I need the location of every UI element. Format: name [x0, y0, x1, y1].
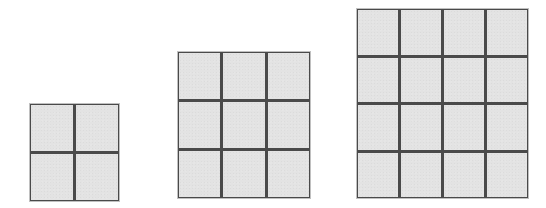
- grid-cell: [487, 58, 527, 103]
- grid-cell: [76, 154, 118, 200]
- grid-cell: [358, 105, 398, 150]
- grid-cell: [179, 53, 220, 99]
- grid-cell: [401, 10, 441, 55]
- grid-cell: [401, 58, 441, 103]
- grid-cell: [268, 102, 309, 148]
- grid-cell: [358, 10, 398, 55]
- grid-cell: [444, 58, 484, 103]
- grid-cell: [487, 10, 527, 55]
- grid-cell: [444, 105, 484, 150]
- grid-cell: [179, 102, 220, 148]
- grid-cell: [223, 53, 264, 99]
- grid-cell: [358, 58, 398, 103]
- grid-cell: [487, 105, 527, 150]
- grid-cell: [31, 105, 73, 151]
- grid-cell: [31, 154, 73, 200]
- grid-cell: [76, 105, 118, 151]
- grid-2x2: [30, 104, 119, 201]
- grid-cell: [358, 153, 398, 198]
- grid-cell: [179, 151, 220, 197]
- grid-cell: [223, 151, 264, 197]
- grid-3x3: [178, 52, 310, 198]
- grid-cell: [487, 153, 527, 198]
- grid-cell: [401, 105, 441, 150]
- grid-4x4: [357, 9, 528, 198]
- grid-cell: [223, 102, 264, 148]
- grid-cell: [401, 153, 441, 198]
- grid-cell: [268, 53, 309, 99]
- grid-cell: [268, 151, 309, 197]
- grid-cell: [444, 10, 484, 55]
- grid-cell: [444, 153, 484, 198]
